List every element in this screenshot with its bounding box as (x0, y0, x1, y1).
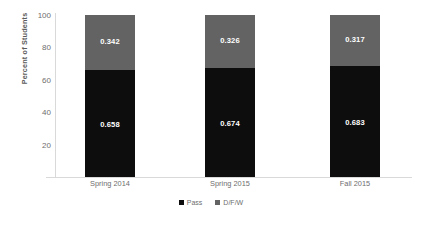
bar-segment-label-pass: 0.658 (100, 120, 120, 129)
bar-segment-label-dfw: 0.342 (100, 37, 120, 46)
bar-stack: 0.317 0.683 (330, 15, 380, 177)
x-axis-line (46, 177, 412, 178)
bar-group-spring-2015[interactable]: 0.326 0.674 Spring 2015 (205, 15, 255, 177)
legend-swatch-icon-pass (179, 200, 184, 205)
y-axis-title: Percent of Students (20, 0, 29, 119)
bar-segment-label-dfw: 0.326 (220, 36, 240, 45)
x-category-label: Spring 2015 (170, 179, 290, 188)
plot-area: 100 80 60 40 20 0.342 0.658 Spring 2014 … (56, 15, 402, 177)
bar-segment-dfw[interactable]: 0.326 (205, 15, 255, 68)
y-tick-20: 20 (42, 140, 51, 149)
bar-segment-dfw[interactable]: 0.342 (85, 15, 135, 70)
legend-swatch-icon-dfw (215, 200, 220, 205)
legend-label-pass: Pass (187, 199, 203, 206)
y-tick-60: 60 (42, 75, 51, 84)
bar-segment-label-pass: 0.683 (345, 118, 365, 127)
legend-label-dfw: D/F/W (223, 199, 243, 206)
bar-segment-label-dfw: 0.317 (345, 35, 365, 44)
legend-item-pass[interactable]: Pass (179, 199, 203, 206)
bar-segment-pass[interactable]: 0.683 (330, 66, 380, 177)
y-tick-100: 100 (38, 11, 51, 20)
bar-stack: 0.326 0.674 (205, 15, 255, 177)
stacked-bar-chart: Percent of Students 100 80 60 40 20 0.34… (0, 0, 422, 226)
bar-segment-dfw[interactable]: 0.317 (330, 15, 380, 66)
bar-segment-pass[interactable]: 0.658 (85, 70, 135, 177)
bar-segment-pass[interactable]: 0.674 (205, 68, 255, 177)
chart-legend: Pass D/F/W (0, 199, 422, 206)
y-tick-40: 40 (42, 108, 51, 117)
x-category-label: Spring 2014 (50, 179, 170, 188)
legend-item-dfw[interactable]: D/F/W (215, 199, 243, 206)
y-tick-80: 80 (42, 43, 51, 52)
bar-group-fall-2015[interactable]: 0.317 0.683 Fall 2015 (330, 15, 380, 177)
bar-group-spring-2014[interactable]: 0.342 0.658 Spring 2014 (85, 15, 135, 177)
x-category-label: Fall 2015 (295, 179, 415, 188)
bar-segment-label-pass: 0.674 (220, 119, 240, 128)
bar-stack: 0.342 0.658 (85, 15, 135, 177)
